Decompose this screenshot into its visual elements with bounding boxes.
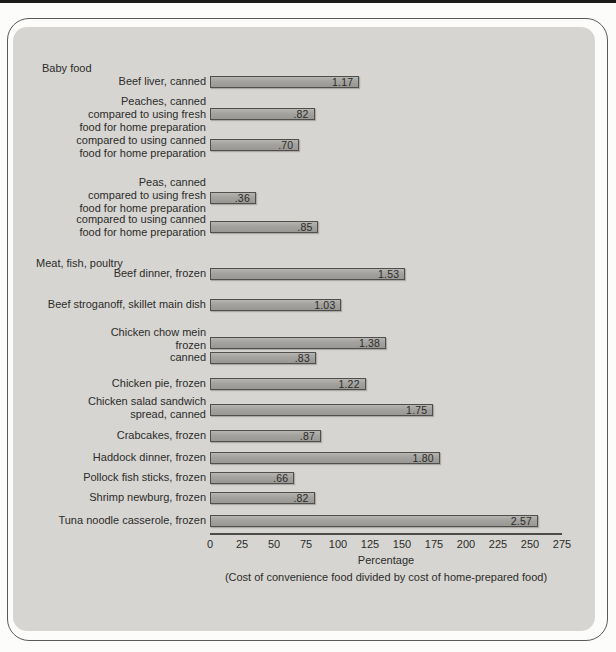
bar-row: Peas, canned compared to using fresh foo… <box>0 192 616 204</box>
plot-area: .87 <box>210 430 561 442</box>
category-label-line: food for home preparation <box>28 121 206 134</box>
plot-area: .36 <box>210 192 561 204</box>
category-label-line: food for home preparation <box>28 147 206 160</box>
bar: .87 <box>210 430 321 442</box>
category-label: Peaches, canned compared to using fresh … <box>28 95 206 134</box>
category-label-line: spread, canned <box>28 408 206 421</box>
bar-row: Chicken salad sandwich spread, canned 1.… <box>0 404 616 416</box>
bar-row: canned .83 <box>0 352 616 364</box>
category-label-line: Beef liver, canned <box>28 75 206 88</box>
category-label-line: compared to using fresh <box>28 189 206 202</box>
category-label: Chicken pie, frozen <box>28 377 206 390</box>
bar-value-label: .87 <box>300 430 320 442</box>
bar-value-label: 1.38 <box>359 337 385 349</box>
category-label: Crabcakes, frozen <box>28 429 206 442</box>
category-label: compared to using canned food for home p… <box>28 134 206 160</box>
bar-row: Beef dinner, frozen 1.53 <box>0 268 616 280</box>
category-label: Tuna noodle casserole, frozen <box>28 514 206 527</box>
category-label-line: Chicken pie, frozen <box>28 377 206 390</box>
bar-value-label: .36 <box>235 192 255 204</box>
category-label: Chicken salad sandwich spread, canned <box>28 395 206 421</box>
category-label: Pollock fish sticks, frozen <box>28 471 206 484</box>
category-label: canned <box>28 351 206 364</box>
plot-area: 1.22 <box>210 378 561 390</box>
x-tick-label: 250 <box>521 538 539 551</box>
category-label: Shrimp newburg, frozen <box>28 491 206 504</box>
x-axis-line <box>210 533 562 535</box>
category-label: Peas, canned compared to using fresh foo… <box>28 176 206 215</box>
x-tick-label: 150 <box>393 538 411 551</box>
x-tick-label: 50 <box>268 538 280 551</box>
bar-value-label: 2.57 <box>511 515 537 527</box>
category-label: Beef dinner, frozen <box>28 267 206 280</box>
category-label-line: Chicken chow mein <box>28 326 206 339</box>
category-label-line: Chicken salad sandwich <box>28 395 206 408</box>
x-tick-label: 175 <box>425 538 443 551</box>
bar-value-label: 1.22 <box>338 378 364 390</box>
bar: 1.17 <box>210 76 359 88</box>
bar-value-label: 1.53 <box>378 268 404 280</box>
plot-area: 1.80 <box>210 452 561 464</box>
bar-chart: Baby food Beef liver, canned 1.17 Peache… <box>0 0 616 652</box>
category-label-line: compared to using fresh <box>28 108 206 121</box>
plot-area: .83 <box>210 352 561 364</box>
category-label-line: Beef dinner, frozen <box>28 267 206 280</box>
bar-value-label: 1.75 <box>406 404 432 416</box>
x-tick-label: 25 <box>236 538 248 551</box>
bar-row: Peaches, canned compared to using fresh … <box>0 108 616 120</box>
x-tick-label: 125 <box>361 538 379 551</box>
category-label-line: compared to using canned <box>28 134 206 147</box>
x-tick-label: 225 <box>489 538 507 551</box>
category-label-line: Beef stroganoff, skillet main dish <box>28 298 206 311</box>
bar-value-label: .82 <box>293 492 313 504</box>
bar: 1.53 <box>210 268 405 280</box>
plot-area: .82 <box>210 108 561 120</box>
bar: 1.38 <box>210 337 386 349</box>
bar-row: Beef liver, canned 1.17 <box>0 76 616 88</box>
x-axis: 0 25 50 75 100 125 150 175 200 225 250 2… <box>210 529 562 567</box>
category-label: Beef liver, canned <box>28 75 206 88</box>
bar: .82 <box>210 108 315 120</box>
category-label-line: food for home preparation <box>28 226 206 239</box>
bar-row: compared to using canned food for home p… <box>0 221 616 233</box>
plot-area: .70 <box>210 139 561 151</box>
bar-value-label: .82 <box>293 108 313 120</box>
category-label-line: Crabcakes, frozen <box>28 429 206 442</box>
bar-row: Pollock fish sticks, frozen .66 <box>0 472 616 484</box>
plot-area: 1.03 <box>210 299 561 311</box>
bar-row: Beef stroganoff, skillet main dish 1.03 <box>0 299 616 311</box>
category-label-line: Haddock dinner, frozen <box>28 451 206 464</box>
bar: .66 <box>210 472 294 484</box>
category-label: Chicken chow mein frozen <box>28 326 206 352</box>
category-label: Beef stroganoff, skillet main dish <box>28 298 206 311</box>
category-label-line: Peaches, canned <box>28 95 206 108</box>
bar-value-label: 1.80 <box>412 452 438 464</box>
plot-area: 1.53 <box>210 268 561 280</box>
bar-row: Tuna noodle casserole, frozen 2.57 <box>0 515 616 527</box>
category-label: compared to using canned food for home p… <box>28 213 206 239</box>
chart-footnote: (Cost of convenience food divided by cos… <box>160 571 612 584</box>
bar: 1.22 <box>210 378 366 390</box>
category-label-line: compared to using canned <box>28 213 206 226</box>
plot-area: .66 <box>210 472 561 484</box>
plot-area: .82 <box>210 492 561 504</box>
bar: 1.80 <box>210 452 440 464</box>
bar-row: Haddock dinner, frozen 1.80 <box>0 452 616 464</box>
plot-area: 2.57 <box>210 515 561 527</box>
bar-value-label: 1.03 <box>314 299 340 311</box>
bar: .82 <box>210 492 315 504</box>
plot-area: 1.38 <box>210 337 561 349</box>
x-tick-label: 0 <box>207 538 213 551</box>
bar-value-label: 1.17 <box>332 76 358 88</box>
section-heading-baby-food: Baby food <box>42 62 92 75</box>
bar: .83 <box>210 352 316 364</box>
x-tick-label: 100 <box>329 538 347 551</box>
plot-area: 1.75 <box>210 404 561 416</box>
bar: .70 <box>210 139 299 151</box>
category-label-line: Pollock fish sticks, frozen <box>28 471 206 484</box>
bar: .36 <box>210 192 256 204</box>
category-label-line: Tuna noodle casserole, frozen <box>28 514 206 527</box>
x-axis-tick-labels: 0 25 50 75 100 125 150 175 200 225 250 2… <box>210 538 562 551</box>
bar-value-label: .83 <box>295 352 315 364</box>
bar-row: Chicken chow mein frozen 1.38 <box>0 337 616 349</box>
